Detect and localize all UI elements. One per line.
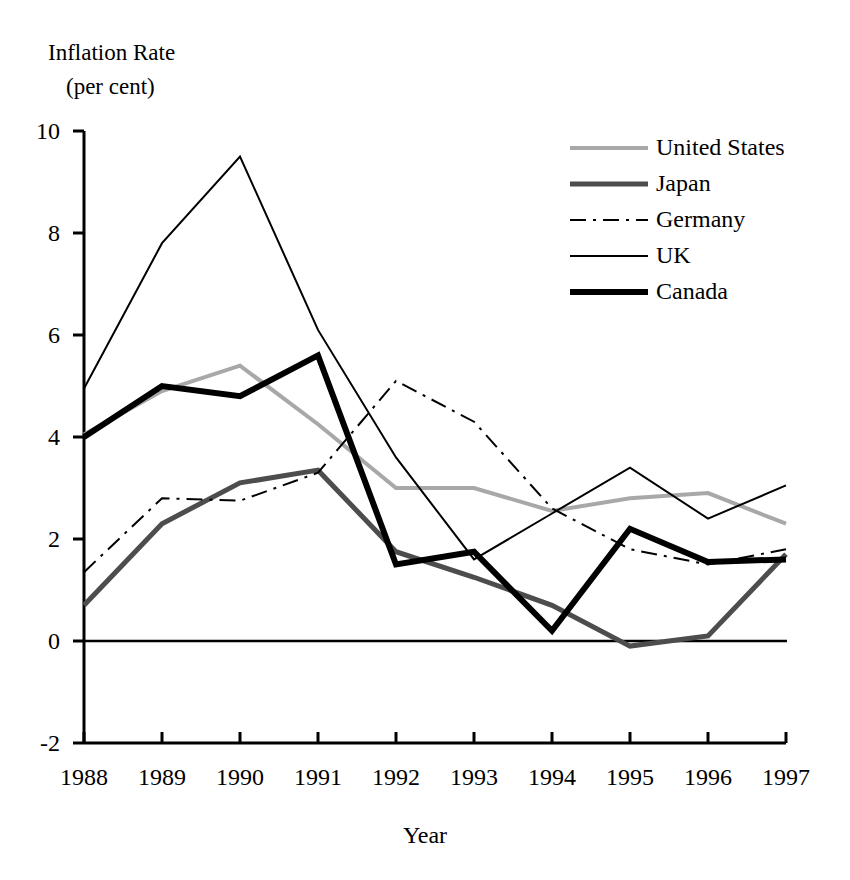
y-axis-tick-label: 4	[10, 425, 60, 449]
legend-line-swatch	[568, 238, 650, 274]
x-axis-tick-label: 1991	[276, 765, 360, 789]
x-axis-tick-label: 1992	[354, 765, 438, 789]
x-axis-title: Year	[0, 822, 850, 849]
legend-item-label: UK	[656, 240, 691, 270]
y-axis-tick-label: 2	[10, 527, 60, 551]
legend-item-label: United States	[656, 132, 785, 162]
x-axis-tick-label: 1989	[120, 765, 204, 789]
x-axis-tick-label: 1997	[744, 765, 828, 789]
y-axis-tick-label: 10	[10, 119, 60, 143]
legend-line-swatch	[568, 166, 650, 202]
y-axis-tick-label: 6	[10, 323, 60, 347]
legend-line-swatch	[568, 130, 650, 166]
x-axis-tick-label: 1995	[588, 765, 672, 789]
legend-line-swatch	[568, 202, 650, 238]
legend-item-label: Germany	[656, 204, 745, 234]
x-axis-tick-label: 1996	[666, 765, 750, 789]
series-line-germany	[84, 381, 786, 572]
y-axis-tick-label: -2	[10, 731, 60, 755]
legend-item-label: Canada	[656, 276, 728, 306]
inflation-rate-line-chart: Inflation Rate (per cent) 1086420-2 1988…	[0, 0, 850, 880]
x-axis-tick-label: 1994	[510, 765, 594, 789]
y-axis-tick-label: 0	[10, 629, 60, 653]
x-axis-tick-label: 1988	[42, 765, 126, 789]
x-axis-tick-label: 1993	[432, 765, 516, 789]
legend-item-label: Japan	[656, 168, 711, 198]
legend-line-swatch	[568, 274, 650, 310]
x-axis-tick-label: 1990	[198, 765, 282, 789]
y-axis-tick-label: 8	[10, 221, 60, 245]
